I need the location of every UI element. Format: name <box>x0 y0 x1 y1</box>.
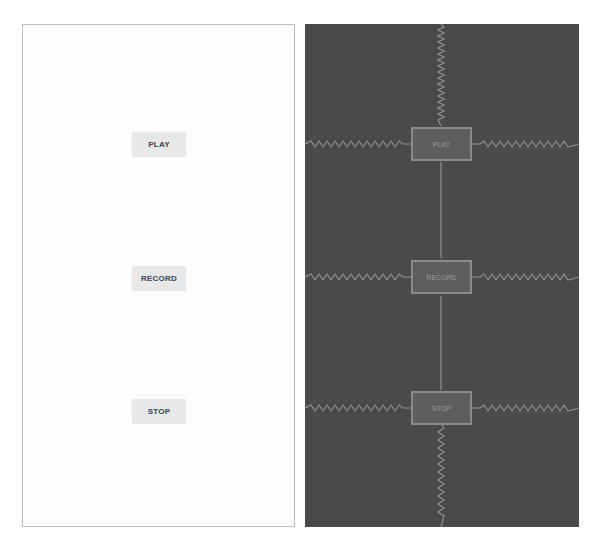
record-button[interactable]: RECORD <box>132 266 186 290</box>
blueprint-record-button[interactable]: RECORD <box>411 260 472 294</box>
blueprint-stop-button[interactable]: STOP <box>411 391 472 425</box>
blueprint-view-panel: PLAY RECORD STOP <box>305 24 579 527</box>
stop-button[interactable]: STOP <box>132 399 186 423</box>
play-button[interactable]: PLAY <box>132 132 186 156</box>
design-view-panel: PLAY RECORD STOP <box>22 24 295 527</box>
blueprint-play-button[interactable]: PLAY <box>411 127 472 161</box>
